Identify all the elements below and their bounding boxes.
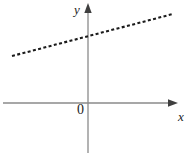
x-axis-arrowhead xyxy=(168,99,178,107)
y-axis-arrowhead xyxy=(84,3,91,13)
dashed-line-series xyxy=(12,14,173,56)
origin-label: 0 xyxy=(77,103,84,117)
coordinate-plot-canvas xyxy=(0,0,189,153)
y-axis-label: y xyxy=(74,3,80,16)
figure-root: y x 0 xyxy=(0,0,189,153)
x-axis-label: x xyxy=(178,110,184,123)
